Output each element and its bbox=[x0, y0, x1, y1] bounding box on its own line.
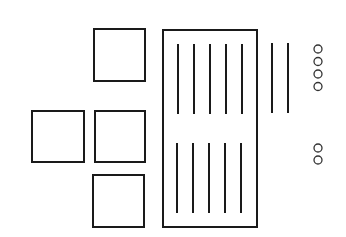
circle-upper bbox=[314, 58, 322, 66]
circle-lower bbox=[314, 144, 322, 152]
circle-upper bbox=[314, 45, 322, 53]
square-left bbox=[32, 111, 84, 162]
circles-group bbox=[314, 45, 322, 164]
square-bottom bbox=[93, 175, 144, 227]
circle-upper bbox=[314, 70, 322, 78]
diagram-canvas bbox=[0, 0, 346, 237]
square-top bbox=[94, 29, 145, 81]
circle-lower bbox=[314, 156, 322, 164]
circle-upper bbox=[314, 83, 322, 91]
vertical-lines-group bbox=[177, 43, 288, 213]
square-middle bbox=[95, 111, 145, 162]
squares-group bbox=[32, 29, 145, 227]
